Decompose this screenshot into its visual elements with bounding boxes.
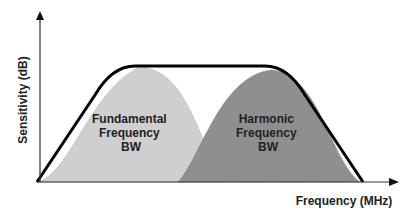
x-axis-label: Frequency (MHz) bbox=[296, 194, 393, 208]
y-axis-arrow-icon bbox=[36, 11, 44, 20]
y-axis-label: Sensitivity (dB) bbox=[16, 56, 30, 143]
sensitivity-diagram: Fundamental Frequency BW Harmonic Freque… bbox=[0, 0, 415, 220]
x-axis-arrow-icon bbox=[389, 178, 399, 186]
